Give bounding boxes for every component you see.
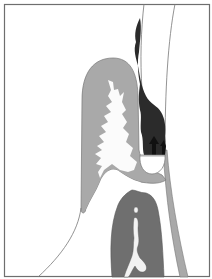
- white-blob-top: [134, 207, 138, 213]
- illustration: [0, 0, 212, 279]
